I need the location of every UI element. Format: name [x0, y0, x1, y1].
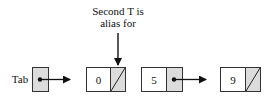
- connectors: [0, 0, 274, 100]
- head-arrow: [38, 77, 70, 81]
- next-arrow: [172, 77, 206, 81]
- null-slash-icon: [246, 68, 260, 91]
- null-slash-icon: [111, 68, 125, 91]
